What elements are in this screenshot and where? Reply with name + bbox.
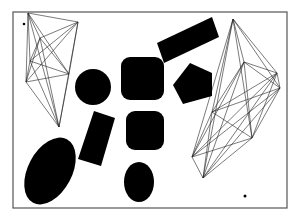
graph-edge <box>28 13 69 74</box>
graph-edge <box>244 62 277 73</box>
graph-edge <box>59 74 69 127</box>
shape-layer <box>14 17 219 213</box>
graph-edge <box>203 73 277 178</box>
dot-bottom-right <box>244 195 247 198</box>
graph-edge <box>192 88 280 157</box>
graph-edge <box>26 74 69 82</box>
pentagon <box>173 63 212 104</box>
dot-top-left <box>23 23 26 26</box>
graph-edge <box>233 19 252 138</box>
graph-edge <box>30 61 59 127</box>
circle <box>75 69 111 105</box>
complete-graph-left <box>26 13 78 127</box>
rotated-rectangle-top <box>157 17 219 63</box>
graph-edge <box>252 88 280 138</box>
graph-edge <box>203 19 233 178</box>
graph-edge <box>30 38 40 61</box>
graph-edge <box>26 38 40 82</box>
graph-edge <box>28 13 78 22</box>
rounded-square-middle <box>126 111 164 150</box>
ellipse-large <box>14 129 87 213</box>
graph-edge <box>40 38 69 74</box>
graph-edge <box>212 112 252 138</box>
graph-edge <box>252 73 277 138</box>
graph-edge <box>233 19 280 88</box>
rotated-rectangle-small <box>78 111 115 166</box>
graph-edge <box>40 22 78 38</box>
graph-edge <box>30 61 69 74</box>
ellipse-small <box>124 162 154 202</box>
rounded-square-top <box>121 57 164 100</box>
diagram-canvas <box>0 0 297 220</box>
graph-edge <box>28 13 59 127</box>
graph-edge <box>192 157 203 178</box>
graph-edge <box>212 62 244 112</box>
